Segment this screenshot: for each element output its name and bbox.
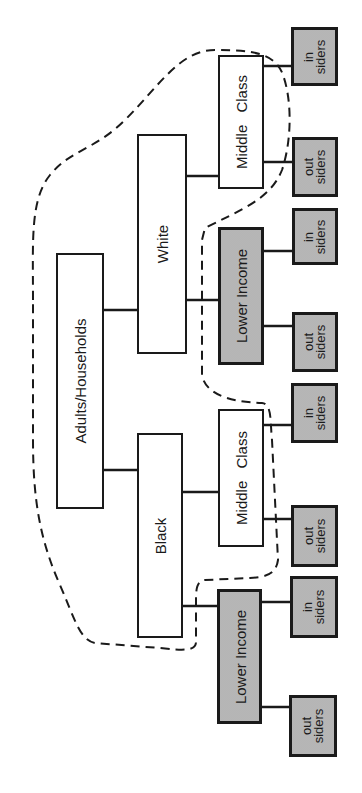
group-box-black: Black <box>137 433 183 638</box>
black-middle-class-box: Middle Class <box>218 409 264 547</box>
leaf-line2: siders <box>315 150 327 185</box>
black-lower-income-label: Lower Income <box>231 609 248 703</box>
leaf-label: out siders <box>303 150 327 185</box>
leaf-label: in siders <box>302 590 326 625</box>
white-lower-income-label: Lower Income <box>233 249 250 343</box>
diagram-canvas: Adults/Households White Black Middle Cla… <box>0 0 362 793</box>
leaf-white-middle-outsiders: out siders <box>292 137 338 197</box>
leaf-black-middle-outsiders: out siders <box>291 505 338 567</box>
leaf-black-lower-outsiders: out siders <box>289 695 337 757</box>
leaf-line2: siders <box>315 219 327 254</box>
leaf-label: in siders <box>303 219 327 254</box>
leaf-black-lower-insiders: in siders <box>290 576 338 638</box>
leaf-label: out siders <box>301 709 325 744</box>
white-lower-income-box: Lower Income <box>218 227 264 365</box>
root-box-adults-households: Adults/Households <box>56 253 104 509</box>
white-middle-class-label: Middle Class <box>233 75 250 169</box>
leaf-black-middle-insiders: in siders <box>291 383 338 443</box>
leaf-line2: siders <box>315 325 327 360</box>
leaf-line2: siders <box>315 396 327 431</box>
leaf-white-lower-insiders: in siders <box>292 208 338 265</box>
group-label-white: White <box>154 225 171 263</box>
leaf-white-middle-insiders: in siders <box>291 27 338 86</box>
leaf-label: in siders <box>303 396 327 431</box>
leaf-white-lower-outsiders: out siders <box>292 312 338 372</box>
black-middle-class-label: Middle Class <box>233 431 250 525</box>
leaf-line2: siders <box>313 709 325 744</box>
leaf-line2: siders <box>315 39 327 74</box>
black-lower-income-box: Lower Income <box>217 589 262 724</box>
leaf-label: out siders <box>303 325 327 360</box>
leaf-line2: siders <box>315 519 327 554</box>
leaf-label: in siders <box>303 39 327 74</box>
group-box-white: White <box>137 134 187 354</box>
group-label-black: Black <box>152 517 169 554</box>
leaf-line2: siders <box>314 590 326 625</box>
root-label: Adults/Households <box>72 318 89 443</box>
white-middle-class-box: Middle Class <box>218 55 264 189</box>
leaf-label: out siders <box>303 519 327 554</box>
